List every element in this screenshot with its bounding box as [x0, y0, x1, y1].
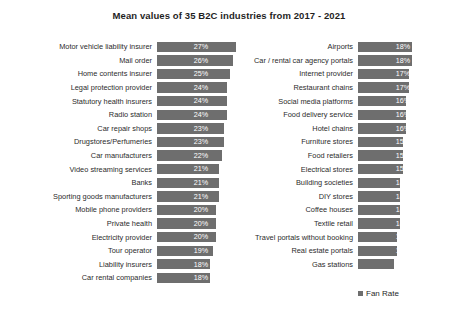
bar-row: Furniture stores15% — [246, 135, 450, 149]
bar-row: Coffee houses14% — [246, 203, 450, 217]
bar-value-label: 12% — [358, 258, 448, 272]
bar-value-label: 15% — [358, 149, 448, 163]
bar-track: 20% — [157, 217, 245, 231]
bar-row: Hotel chains16% — [246, 122, 450, 136]
bar-track: 24% — [157, 81, 245, 95]
bar-row: Car rental companies18% — [22, 271, 246, 285]
bar-row: Travel portals without booking13% — [246, 230, 450, 244]
bar-value-label: 14% — [358, 176, 448, 190]
bar-category-label: Liability insurers — [22, 260, 157, 269]
bar-value-label: 20% — [157, 217, 245, 231]
bar-value-label: 14% — [358, 190, 448, 204]
bar-track: 14% — [358, 203, 448, 217]
bar-track: 26% — [157, 54, 245, 68]
bar-row: Mobile phone providers20% — [22, 203, 246, 217]
bar-value-label: 18% — [157, 258, 245, 272]
bar-value-label: 17% — [358, 81, 448, 95]
bar-track: 27% — [157, 40, 245, 54]
bar-value-label: 24% — [157, 81, 245, 95]
bar-row: Sporting goods manufacturers21% — [22, 190, 246, 204]
bar-value-label: 18% — [157, 271, 245, 285]
bar-value-label: 18% — [358, 40, 448, 54]
bar-value-label: 24% — [157, 94, 245, 108]
bar-value-label: 15% — [358, 162, 448, 176]
bar-row: Social media platforms16% — [246, 94, 450, 108]
bar-row: Mail order26% — [22, 54, 246, 68]
bar-category-label: Statutory health insurers — [22, 97, 157, 106]
bar-value-label: 24% — [157, 108, 245, 122]
bar-category-label: Drugstores/Perfumeries — [22, 137, 157, 146]
bar-row: Banks21% — [22, 176, 246, 190]
bar-value-label: 15% — [358, 135, 448, 149]
bar-category-label: Tour operator — [22, 246, 157, 255]
bar-category-label: Video streaming services — [22, 165, 157, 174]
bar-track: 22% — [157, 149, 245, 163]
legend-label: Fan Rate — [366, 289, 399, 298]
legend-swatch-icon — [358, 291, 363, 296]
bar-track: 20% — [157, 230, 245, 244]
bar-category-label: DIY stores — [246, 192, 358, 201]
bar-category-label: Car / rental car agency portals — [246, 56, 358, 65]
bar-value-label: 16% — [358, 108, 448, 122]
chart-column-right: Airports18%Car / rental car agency porta… — [246, 40, 450, 271]
bar-value-label: 20% — [157, 230, 245, 244]
bar-category-label: Textile retail — [246, 219, 358, 228]
bar-track: 18% — [157, 271, 245, 285]
bar-value-label: 22% — [157, 149, 245, 163]
bar-row: Gas stations12% — [246, 258, 450, 272]
bar-track: 14% — [358, 176, 448, 190]
bar-row: DIY stores14% — [246, 190, 450, 204]
bar-track: 12% — [358, 258, 448, 272]
bar-value-label: 23% — [157, 135, 245, 149]
bar-row: Tour operator19% — [22, 244, 246, 258]
bar-track: 14% — [358, 217, 448, 231]
bar-row: Car manufacturers22% — [22, 149, 246, 163]
bar-track: 25% — [157, 67, 245, 81]
bar-track: 18% — [157, 258, 245, 272]
bar-category-label: Gas stations — [246, 260, 358, 269]
bar-track: 16% — [358, 94, 448, 108]
bar-value-label: 19% — [157, 244, 245, 258]
bar-track: 15% — [358, 149, 448, 163]
bar-row: Car repair shops23% — [22, 122, 246, 136]
bar-row: Liability insurers18% — [22, 258, 246, 272]
bar-value-label: 23% — [157, 122, 245, 136]
bar-category-label: Social media platforms — [246, 97, 358, 106]
bar-category-label: Restaurant chains — [246, 83, 358, 92]
bar-track: 13% — [358, 244, 448, 258]
chart-title: Mean values of 35 B2C industries from 20… — [0, 10, 458, 21]
bar-category-label: Sporting goods manufacturers — [22, 192, 157, 201]
bar-value-label: 13% — [358, 244, 448, 258]
bar-track: 24% — [157, 108, 245, 122]
bar-row: Airports18% — [246, 40, 450, 54]
bar-category-label: Coffee houses — [246, 205, 358, 214]
bar-category-label: Legal protection provider — [22, 83, 157, 92]
bar-track: 23% — [157, 122, 245, 136]
bar-category-label: Food retailers — [246, 151, 358, 160]
bar-value-label: 20% — [157, 203, 245, 217]
bar-row: Real estate portals13% — [246, 244, 450, 258]
bar-row: Electrical stores15% — [246, 162, 450, 176]
bar-category-label: Airports — [246, 42, 358, 51]
bar-value-label: 27% — [157, 40, 245, 54]
bar-row: Statutory health insurers24% — [22, 94, 246, 108]
bar-row: Restaurant chains17% — [246, 81, 450, 95]
bar-category-label: Mail order — [22, 56, 157, 65]
bar-track: 17% — [358, 67, 448, 81]
bar-track: 18% — [358, 54, 448, 68]
bar-row: Private health20% — [22, 217, 246, 231]
bar-value-label: 16% — [358, 122, 448, 136]
bar-category-label: Radio station — [22, 110, 157, 119]
bar-track: 24% — [157, 94, 245, 108]
chart-legend: Fan Rate — [358, 289, 399, 298]
bar-category-label: Real estate portals — [246, 246, 358, 255]
bar-value-label: 16% — [358, 94, 448, 108]
bar-track: 18% — [358, 40, 448, 54]
bar-row: Building societies14% — [246, 176, 450, 190]
bar-track: 21% — [157, 176, 245, 190]
bar-track: 15% — [358, 162, 448, 176]
bar-row: Car / rental car agency portals18% — [246, 54, 450, 68]
bar-row: Textile retail14% — [246, 217, 450, 231]
bar-category-label: Mobile phone providers — [22, 205, 157, 214]
bar-value-label: 17% — [358, 67, 448, 81]
